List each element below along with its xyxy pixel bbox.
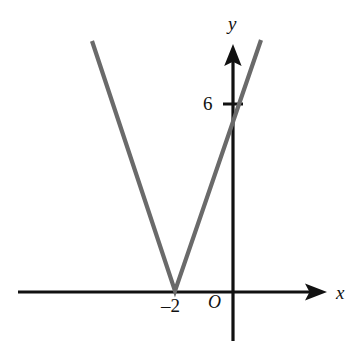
coordinate-plane-svg <box>0 0 358 344</box>
x-axis-label: x <box>336 283 344 302</box>
y-axis-label: y <box>228 14 236 33</box>
vertex-x-tick-label: –2 <box>161 296 180 315</box>
absolute-value-curve <box>92 40 261 291</box>
absolute-value-graph-figure: y x O 6 –2 <box>0 0 358 344</box>
y-intercept-tick-label: 6 <box>203 94 213 113</box>
origin-label: O <box>208 293 221 311</box>
